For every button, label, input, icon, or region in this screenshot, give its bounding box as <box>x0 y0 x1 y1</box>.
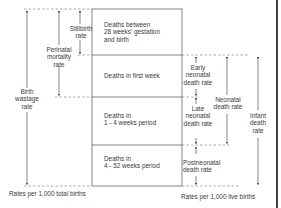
box-one-four-weeks: Deaths in 1 - 4 weeks period <box>104 112 156 127</box>
label-line: rate <box>12 103 42 110</box>
label-line: Neonatal <box>212 96 244 103</box>
infant-rate-label: Infant death rate <box>244 112 272 134</box>
label-line: death rate <box>182 79 214 86</box>
perinatal-mortality-rate-label: Perinatal mortality rate <box>42 46 76 68</box>
footer-live-births: Rates per 1,000 live births <box>181 193 255 200</box>
label-line: Birth <box>12 88 42 95</box>
label-line: neonatal <box>182 71 214 78</box>
label-line: death rate <box>212 103 244 110</box>
label-line: Infant <box>244 112 272 119</box>
box-label-line: 1 - 4 weeks period <box>104 119 156 126</box>
mortality-rates-diagram: Deaths between 28 weeks' gestation and b… <box>0 0 281 208</box>
box-four-52-weeks: Deaths in 4 - 52 weeks period <box>104 155 160 170</box>
box-label-line: Deaths in <box>104 112 156 119</box>
label-line: rate <box>42 61 76 68</box>
label-line: rate <box>66 32 96 39</box>
late-neonatal-rate-label: Late neonatal death rate <box>182 105 214 127</box>
birth-wastage-rate-label: Birth wastage rate <box>12 88 42 110</box>
box-label-line: Deaths between <box>104 21 160 28</box>
box-label-line: 28 weeks' gestation <box>104 28 160 35</box>
box-label-line: Deaths in <box>104 155 160 162</box>
label-line: Stillbirth <box>66 25 96 32</box>
label-line: death <box>244 119 272 126</box>
figure-right-border <box>276 0 278 208</box>
label-line: death rate <box>183 166 220 173</box>
box-stillbirth-period: Deaths between 28 weeks' gestation and b… <box>104 21 160 43</box>
label-line: rate <box>244 127 272 134</box>
label-line: mortality <box>42 53 76 60</box>
early-neonatal-rate-label: Early neonatal death rate <box>182 64 214 86</box>
neonatal-rate-label: Neonatal death rate <box>212 96 244 111</box>
label-line: neonatal <box>182 112 214 119</box>
box-label-line: 4 - 52 weeks period <box>104 162 160 169</box>
footer-total-births: Rates per 1,000 total births <box>9 190 86 197</box>
label-line: Late <box>182 105 214 112</box>
label-line: Early <box>182 64 214 71</box>
label-line: wastage <box>12 95 42 102</box>
box-first-week: Deaths in first week <box>104 72 160 79</box>
label-line: death rate <box>182 120 214 127</box>
label-line: Perinatal <box>42 46 76 53</box>
label-line: Postneonatal <box>183 159 220 166</box>
postneonatal-rate-label: Postneonatal death rate <box>183 159 220 174</box>
box-label-line: and birth <box>104 36 160 43</box>
stillbirth-rate-label: Stillbirth rate <box>66 25 96 40</box>
